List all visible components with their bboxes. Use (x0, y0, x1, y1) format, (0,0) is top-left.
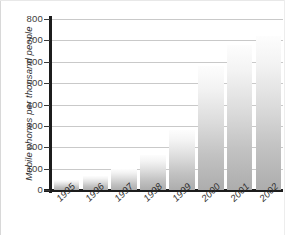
y-axis-tick-labels: 8007006005004003002001000 (0, 0, 43, 235)
y-axis-tick (44, 40, 50, 41)
y-axis-tick (44, 105, 50, 106)
bar-2002 (256, 36, 281, 190)
y-axis-tick-label: 400 (3, 99, 43, 110)
bar-series (52, 19, 283, 190)
y-axis-tick (44, 62, 50, 63)
y-axis-tick (44, 83, 50, 84)
y-axis-tick (44, 126, 50, 127)
y-axis-tick (44, 169, 50, 170)
y-axis-tick-label: 300 (3, 120, 43, 131)
page-border-right (284, 0, 285, 235)
y-axis-tick (44, 19, 50, 20)
y-axis-tick-label: 0 (3, 184, 43, 195)
bar-2000 (198, 66, 223, 190)
y-axis-tick-label: 600 (3, 56, 43, 67)
y-axis-tick (44, 190, 50, 191)
y-axis-tick-label: 500 (3, 77, 43, 88)
bar-2001 (227, 45, 252, 190)
y-axis-tick-label: 700 (3, 34, 43, 45)
y-axis-tick-label: 200 (3, 141, 43, 152)
y-axis-tick (44, 147, 50, 148)
y-axis-tick-label: 100 (3, 163, 43, 174)
y-axis-tick-label: 800 (3, 13, 43, 24)
x-axis-tick-labels: 19951996199719981999200020012002 (52, 192, 283, 235)
bar-1999 (169, 130, 194, 190)
chart-page: Mobile phones per thousand people 800700… (0, 0, 285, 235)
